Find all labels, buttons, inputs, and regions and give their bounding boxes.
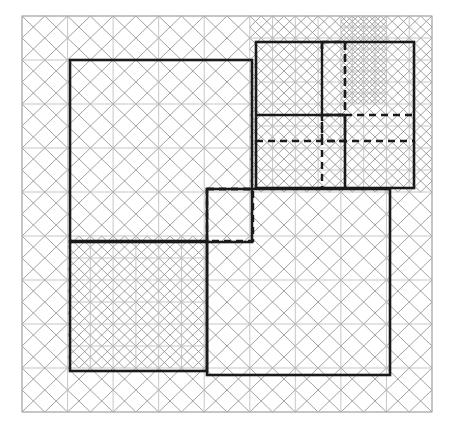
geometric-diagram bbox=[0, 0, 457, 432]
figure-root bbox=[0, 0, 457, 432]
